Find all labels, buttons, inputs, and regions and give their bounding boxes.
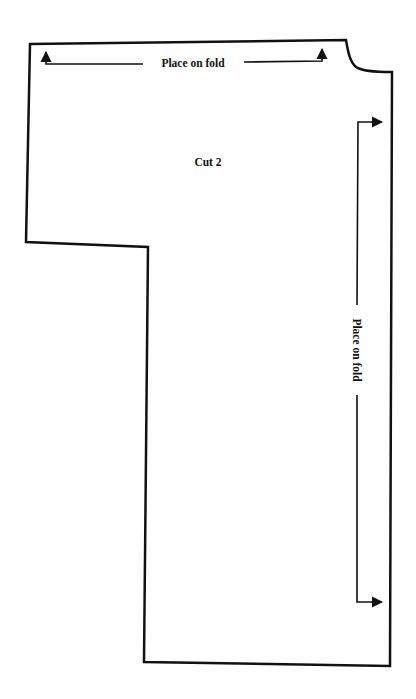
side-fold-bottom-arrow xyxy=(357,395,382,602)
side-fold-top-arrow xyxy=(357,122,382,305)
top-fold-right-arrow xyxy=(244,49,322,62)
pattern-outline xyxy=(26,40,392,666)
top-fold-indicator: Place on fold xyxy=(46,49,322,69)
cut-quantity-label: Cut 2 xyxy=(194,156,221,168)
side-fold-label: Place on fold xyxy=(351,318,363,382)
top-fold-label: Place on fold xyxy=(161,57,225,69)
top-fold-left-arrow xyxy=(46,52,143,64)
side-fold-indicator: Place on fold xyxy=(351,122,382,602)
pattern-diagram: Place on fold Cut 2 Place on fold xyxy=(0,0,416,699)
